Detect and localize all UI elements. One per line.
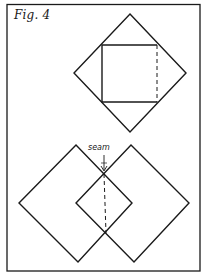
figure-label: Fig. 4 (14, 8, 50, 22)
seam-arrow-icon (101, 155, 107, 171)
top-diagram (74, 14, 186, 132)
seam-label: seam (88, 143, 110, 152)
figure-frame: Fig. 4 seam (0, 0, 203, 276)
bottom-diagram (19, 145, 189, 262)
outer-diamond (74, 14, 186, 132)
inner-square-solid-edges (102, 45, 157, 102)
figure-canvas (0, 0, 203, 276)
seam-line (104, 174, 106, 233)
